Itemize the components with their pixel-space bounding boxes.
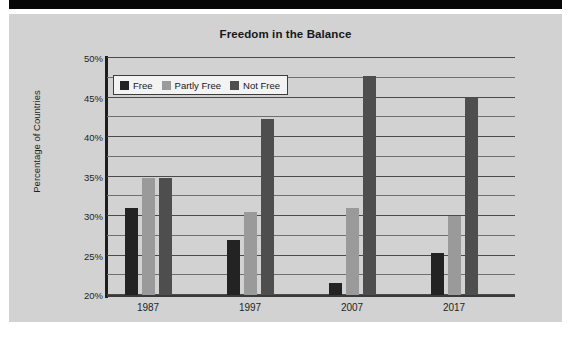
y-axis-tick-label: 25% <box>57 250 103 261</box>
x-axis-tick-label: 2007 <box>322 302 382 313</box>
bar[interactable] <box>261 119 274 295</box>
top-black-banner <box>9 0 562 9</box>
bar[interactable] <box>329 283 342 295</box>
chart-panel: Freedom in the Balance Percentage of Cou… <box>9 14 562 322</box>
legend-swatch-icon <box>162 81 171 90</box>
x-axis-line <box>107 295 515 297</box>
y-axis-tick-label: 40% <box>57 132 103 143</box>
chart-legend: FreePartly FreeNot Free <box>113 75 288 95</box>
legend-swatch-icon <box>120 81 129 90</box>
bar-group <box>329 58 376 295</box>
bar[interactable] <box>227 240 240 295</box>
y-axis-tick-labels: 20%25%30%35%40%45%50% <box>47 58 103 295</box>
bar[interactable] <box>465 98 478 296</box>
legend-label: Partly Free <box>175 80 221 91</box>
x-axis-tick-label: 2017 <box>424 302 484 313</box>
bar[interactable] <box>159 178 172 295</box>
bar-group <box>431 58 478 295</box>
legend-item[interactable]: Not Free <box>230 80 280 91</box>
bar[interactable] <box>142 178 155 295</box>
chart-page: Freedom in the Balance Percentage of Cou… <box>0 0 571 339</box>
bar[interactable] <box>346 208 359 295</box>
x-axis-tick-label: 1987 <box>118 302 178 313</box>
bar[interactable] <box>244 212 257 295</box>
legend-label: Free <box>133 80 153 91</box>
bar[interactable] <box>125 208 138 295</box>
bar[interactable] <box>363 76 376 295</box>
legend-item[interactable]: Free <box>120 80 153 91</box>
legend-label: Not Free <box>243 80 280 91</box>
bar[interactable] <box>431 253 444 295</box>
y-axis-tick-label: 50% <box>57 53 103 64</box>
x-axis-tick-label: 1997 <box>220 302 280 313</box>
legend-item[interactable]: Partly Free <box>162 80 221 91</box>
y-axis-tick-label: 30% <box>57 211 103 222</box>
legend-swatch-icon <box>230 81 239 90</box>
y-axis-title: Percentage of Countries <box>31 67 42 217</box>
y-axis-tick-label: 35% <box>57 171 103 182</box>
y-axis-tick-label: 45% <box>57 92 103 103</box>
chart-title: Freedom in the Balance <box>9 28 562 40</box>
bar[interactable] <box>448 216 461 295</box>
y-axis-tick-label: 20% <box>57 290 103 301</box>
